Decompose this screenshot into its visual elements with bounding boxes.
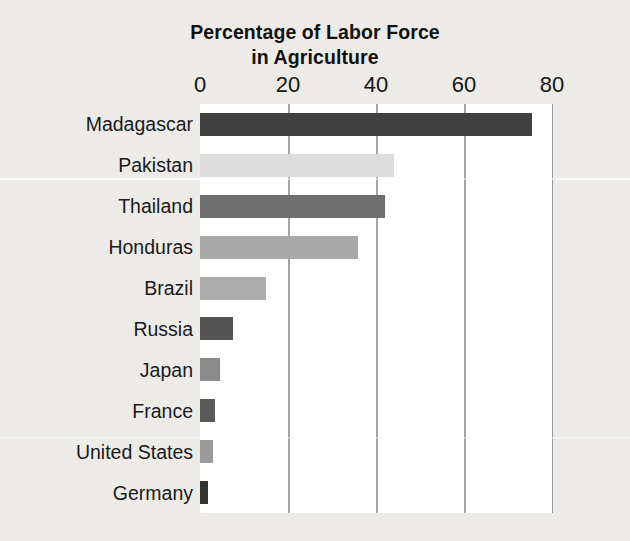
- bar-row[interactable]: [200, 431, 552, 472]
- bar-row[interactable]: [200, 472, 552, 513]
- bar-row[interactable]: [200, 268, 552, 309]
- category-label: France: [0, 399, 193, 423]
- x-tick-label: 60: [434, 72, 494, 98]
- category-label: Thailand: [0, 194, 193, 218]
- bar[interactable]: [200, 277, 266, 300]
- category-label: Pakistan: [0, 153, 193, 177]
- bar[interactable]: [200, 358, 220, 381]
- bar[interactable]: [200, 195, 385, 218]
- bar[interactable]: [200, 440, 213, 463]
- bar-row[interactable]: [200, 186, 552, 227]
- chart-title-line-1: Percentage of Labor Force: [190, 21, 440, 43]
- bar-row[interactable]: [200, 390, 552, 431]
- category-label: Russia: [0, 317, 193, 341]
- category-label: Japan: [0, 358, 193, 382]
- bar[interactable]: [200, 154, 394, 177]
- bars-layer: [200, 104, 552, 513]
- category-axis-labels: MadagascarPakistanThailandHondurasBrazil…: [0, 104, 193, 513]
- bar-row[interactable]: [200, 145, 552, 186]
- category-label: Germany: [0, 481, 193, 505]
- bar-row[interactable]: [200, 349, 552, 390]
- bar[interactable]: [200, 399, 215, 422]
- category-label: Honduras: [0, 235, 193, 259]
- bar[interactable]: [200, 113, 532, 136]
- bar-row[interactable]: [200, 104, 552, 145]
- x-tick-label: 40: [346, 72, 406, 98]
- bar-row[interactable]: [200, 309, 552, 350]
- chart-title: Percentage of Labor Forcein Agriculture: [0, 20, 630, 70]
- x-tick-label: 0: [170, 72, 230, 98]
- category-label: Brazil: [0, 276, 193, 300]
- x-axis-tick-labels: 020406080: [0, 72, 630, 100]
- bar-row[interactable]: [200, 227, 552, 268]
- chart-title-line-2: in Agriculture: [251, 46, 378, 68]
- bar[interactable]: [200, 317, 233, 340]
- x-tick-label: 20: [258, 72, 318, 98]
- category-label: United States: [0, 440, 193, 464]
- bar[interactable]: [200, 236, 358, 259]
- category-label: Madagascar: [0, 112, 193, 136]
- bar-chart-figure: Percentage of Labor Forcein Agriculture …: [0, 0, 630, 541]
- x-tick-label: 80: [522, 72, 582, 98]
- bar[interactable]: [200, 481, 208, 504]
